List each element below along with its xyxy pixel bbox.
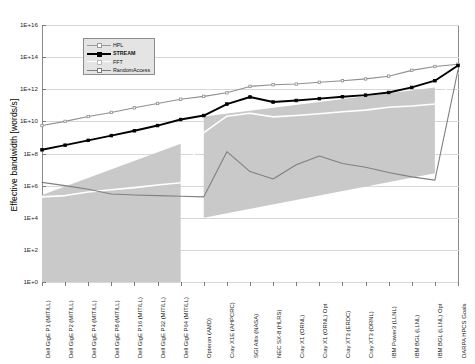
series-marker-hpl [341,80,343,82]
x-axis-tick-label: Cray X1 (ORNL) [299,315,305,358]
y-axis-tick-label: 1E+14 [0,53,38,60]
y-axis-tick-label: 1E+12 [0,85,38,92]
x-axis-tick-label: Dell GigE P16 (MIT/LL) [137,297,143,358]
y-axis-tick-label: 1E+4 [0,214,38,221]
series-marker-stream [295,99,298,102]
y-axis-tick-label: 1E+8 [0,150,38,157]
legend-item-fft[interactable]: FFT [87,58,151,66]
series-marker-hpl [156,102,158,104]
series-marker-hpl [133,107,135,109]
x-axis-tick-label: IBM BGL (LLNL) Opt [437,304,443,358]
series-marker-stream [410,86,413,89]
y-axis-tick-label: 1E+16 [0,21,38,28]
series-marker-hpl [226,92,228,94]
x-axis-tick-label: Dell GigE P1 (MIT/LL) [45,300,51,358]
legend-item-stream[interactable]: STREAM [87,49,151,57]
series-marker-hpl [41,124,43,126]
legend-label: STREAM [111,50,135,56]
series-marker-hpl [249,85,251,87]
y-axis-tick-label: 1E+10 [0,117,38,124]
series-marker-stream [387,91,390,94]
legend-item-hpl[interactable]: HPL [87,41,151,49]
shaded-band-left-cluster-band [42,144,181,282]
series-marker-stream [133,129,136,132]
x-axis-tick-label: Dell GigE P8 (MIT/LL) [114,300,120,358]
x-axis-tick-label: Cray X1 (ORNL) Opt [322,304,328,358]
chart-legend: HPLSTREAMFFTRandomAccess [83,38,155,75]
x-axis-tick-label: Cray XT3 (ERDC) [345,311,351,358]
series-marker-hpl [203,95,205,97]
series-marker-stream [457,64,460,67]
x-axis-tick-label: Dell GigE P2 (MIT/LL) [68,300,74,358]
legend-swatch-icon [87,58,111,66]
series-marker-hpl [295,83,297,85]
series-marker-hpl [387,75,389,77]
x-axis-tick-label: SGI Altix (NASA) [253,314,259,358]
series-marker-hpl [64,120,66,122]
series-marker-stream [41,149,44,152]
series-marker-hpl [364,78,366,80]
x-axis-tick-label: Dell GigE P4 (MIT/LL) [91,300,97,358]
y-axis-tick-label: 1E+0 [0,278,38,285]
series-marker-hpl [411,69,413,71]
series-marker-stream [156,124,159,127]
series-marker-hpl [434,65,436,67]
x-axis-tick-label: Cray X1E (AHPCRC) [229,302,235,358]
legend-label: HPL [111,42,123,48]
legend-label: FFT [111,59,123,65]
series-marker-stream [110,134,113,137]
series-marker-hpl [87,115,89,117]
series-marker-hpl [272,84,274,86]
series-marker-stream [434,79,437,82]
x-axis-tick-label: DARPA HPCS Goals [461,303,467,358]
y-axis-tick-label: 1E+2 [0,246,38,253]
series-marker-stream [226,103,229,106]
series-marker-stream [249,96,252,99]
legend-swatch-icon [87,41,111,49]
series-marker-stream [64,144,67,147]
x-axis-tick-label: Opteron (AMD) [206,318,212,358]
chart-root: Effective bandwidth [words/s] 1E+161E+14… [0,0,475,364]
x-axis-tick-label: IBM BGL (LLNL) [414,315,420,358]
series-marker-stream [179,118,182,121]
legend-label: RandomAccess [111,67,150,73]
x-axis-tick-label: Cray XT3 (ORNL) [368,311,374,358]
legend-swatch-icon [87,49,111,57]
series-marker-stream [202,114,205,117]
series-marker-stream [341,95,344,98]
x-axis-tick-label: Dell GigE P64 (MIT/LL) [183,297,189,358]
legend-swatch-icon [87,66,111,74]
series-marker-hpl [318,81,320,83]
series-marker-stream [272,101,275,104]
series-marker-stream [364,94,367,97]
x-axis-tick-label: IBM Power3 (LLNL) [391,306,397,358]
x-axis-tick-label: NEC SX-8 (HLRS) [276,310,282,358]
series-marker-hpl [110,111,112,113]
y-axis-tick-label: 1E+6 [0,182,38,189]
series-marker-stream [87,139,90,142]
legend-item-randomaccess[interactable]: RandomAccess [87,66,151,74]
series-marker-hpl [179,98,181,100]
x-axis-tick-label: Dell GigE P32 (MIT/LL) [160,297,166,358]
series-marker-stream [318,97,321,100]
